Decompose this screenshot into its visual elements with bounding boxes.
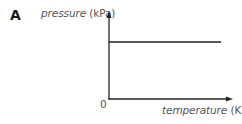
origin-label: 0 [100, 98, 107, 110]
x-axis-arrow-icon [226, 97, 233, 102]
y-axis-arrow-icon [107, 11, 112, 18]
x-axis-quantity: temperature [162, 104, 227, 116]
y-axis [107, 11, 112, 100]
x-axis-label: temperature (K) [162, 104, 242, 116]
x-axis-unit: (K) [230, 104, 242, 116]
x-axis [108, 97, 233, 102]
